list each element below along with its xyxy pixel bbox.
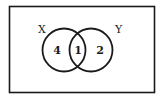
x-only-count: 4 — [53, 44, 61, 57]
venn-diagram: X Y 4 1 2 — [0, 0, 162, 101]
set-y-label: Y — [114, 23, 123, 36]
universal-set-rectangle — [10, 7, 155, 93]
intersection-count: 1 — [74, 44, 82, 57]
y-only-count: 2 — [96, 44, 104, 57]
set-x-label: X — [38, 23, 46, 36]
